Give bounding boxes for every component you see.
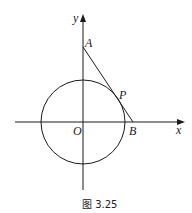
segment-ab — [83, 47, 133, 122]
y-axis-label: y — [72, 11, 79, 25]
point-o-label: O — [73, 124, 82, 138]
x-axis-label: x — [175, 123, 182, 137]
point-b-label: B — [129, 124, 137, 138]
y-axis-arrow-icon — [80, 14, 86, 22]
point-p-label: P — [118, 88, 127, 102]
figure-diagram: y x A P O B 图 3.25 — [0, 0, 192, 213]
figure-caption: 图 3.25 — [82, 199, 117, 210]
point-a-label: A — [84, 36, 93, 50]
